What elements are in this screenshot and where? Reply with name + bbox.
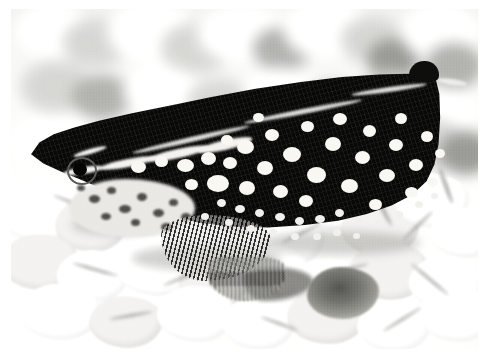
cheek-mottle — [131, 219, 140, 226]
body-spot — [333, 113, 347, 125]
cheek-mottle — [77, 185, 85, 191]
body-spot — [409, 159, 423, 171]
body-spot — [207, 175, 229, 192]
body-spot-small — [275, 213, 285, 221]
body-spot-small — [335, 209, 344, 217]
dorsal-fin-lobe — [409, 61, 439, 81]
body-spot — [325, 137, 341, 151]
body-spot-small — [315, 215, 325, 223]
cheek-mottle — [107, 187, 116, 194]
body-spot — [201, 152, 216, 165]
body-spot-small — [235, 205, 245, 213]
body-spot-small — [353, 233, 360, 239]
cheek-mottle — [119, 205, 131, 213]
fish-subject — [11, 9, 478, 349]
body-spot — [273, 185, 288, 198]
body-spot-small — [355, 217, 364, 225]
body-spot — [239, 181, 255, 195]
cheek-mottle — [101, 213, 111, 220]
body-spot-small — [415, 201, 423, 208]
body-spot-small — [395, 211, 403, 218]
body-spot — [389, 139, 403, 151]
body-spot-small — [431, 193, 438, 199]
body-spot-small — [291, 233, 299, 240]
body-spot-small — [295, 217, 304, 225]
body-spot — [427, 177, 438, 187]
body-spot — [405, 187, 418, 198]
body-spot — [301, 121, 314, 132]
body-spot — [355, 151, 370, 164]
body-spot — [185, 179, 198, 190]
body-spot — [237, 140, 254, 154]
cheek-mottle — [137, 193, 147, 201]
body-spot — [435, 149, 445, 158]
body-spot-small — [269, 229, 277, 236]
body-spot — [223, 157, 237, 169]
cheek-mottle — [169, 199, 178, 206]
body-spot-small — [255, 209, 264, 217]
body-spot — [221, 135, 233, 145]
body-spot — [341, 179, 358, 193]
body-spot — [299, 195, 313, 207]
body-spot — [177, 159, 194, 172]
body-spot-small — [247, 225, 255, 232]
body-spot — [379, 169, 395, 182]
cheek-mottle — [153, 209, 164, 217]
body-spot — [307, 167, 326, 183]
body-spot — [131, 161, 146, 173]
body-spot-small — [201, 213, 209, 220]
cheek-mottle — [89, 195, 100, 203]
body-spot — [253, 113, 264, 122]
body-spot — [283, 147, 301, 162]
body-spot-small — [375, 219, 383, 226]
body-spot — [265, 129, 279, 141]
body-spot-small — [217, 199, 226, 207]
body-spot — [155, 156, 168, 167]
dorsal-rim-highlight — [437, 77, 468, 87]
body-spot-small — [313, 233, 321, 240]
body-spot — [257, 161, 273, 175]
photograph-plate — [11, 9, 478, 349]
body-spot-small — [225, 219, 233, 226]
photo-page — [0, 0, 494, 363]
body-spot — [363, 125, 376, 137]
body-spot — [395, 113, 407, 124]
body-spot — [421, 131, 433, 142]
fish-eye-pupil — [73, 163, 87, 176]
body-spot — [369, 199, 382, 210]
body-spot-small — [333, 229, 341, 236]
